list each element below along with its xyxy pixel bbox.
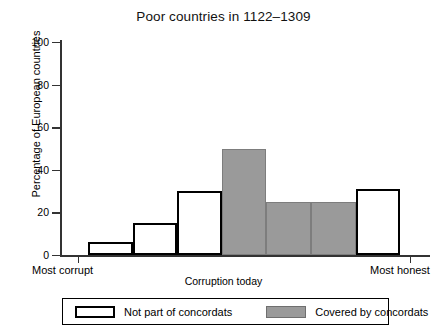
bar-5 xyxy=(266,202,311,255)
x-tick-right xyxy=(410,255,411,263)
x-axis-line xyxy=(60,255,430,257)
y-tick-label-0: 0 xyxy=(22,249,49,261)
legend-item-covered: Covered by concordats xyxy=(266,306,428,318)
legend-label-covered: Covered by concordats xyxy=(315,306,428,318)
plot-area xyxy=(60,42,430,255)
x-axis-label: Corruption today xyxy=(0,275,447,287)
y-tick-label-100: 100 xyxy=(22,36,49,48)
legend-label-not-part: Not part of concordats xyxy=(124,306,232,318)
legend-item-not-part: Not part of concordats xyxy=(75,306,232,318)
y-tick-label-60: 60 xyxy=(22,121,49,133)
bar-3 xyxy=(177,191,222,255)
chart-legend: Not part of concordats Covered by concor… xyxy=(62,298,389,325)
y-tick-label-40: 40 xyxy=(22,164,49,176)
bar-4 xyxy=(222,149,267,256)
legend-swatch-filled-icon xyxy=(266,306,306,318)
bar-6 xyxy=(311,202,356,255)
chart-page: Poor countries in 1122–1309 Percentage o… xyxy=(0,0,447,333)
y-tick-label-20: 20 xyxy=(22,206,49,218)
y-tick-label-80: 80 xyxy=(22,79,49,91)
chart-title: Poor countries in 1122–1309 xyxy=(0,9,447,24)
x-tick-left xyxy=(78,255,79,263)
legend-swatch-open-icon xyxy=(75,306,115,318)
bar-7 xyxy=(356,189,401,255)
bar-1 xyxy=(88,242,133,255)
bar-2 xyxy=(133,223,178,255)
